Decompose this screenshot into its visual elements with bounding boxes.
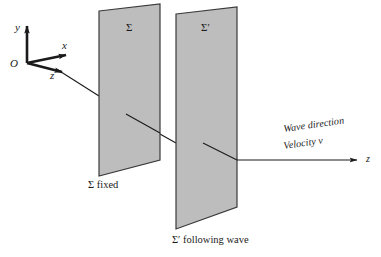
figure-canvas: y x z O Σ Σ′ Σ fixed Σ′ following wave W… <box>0 0 381 257</box>
plane-sigma-caption: Σ fixed <box>88 180 118 191</box>
physics-diagram-svg <box>0 0 381 257</box>
plane-sigma-prime-caption: Σ′ following wave <box>172 235 249 246</box>
axis-origin-label: O <box>10 58 18 69</box>
axis-label-x: x <box>62 40 67 51</box>
plane-sigma-prime <box>176 7 237 229</box>
axis-label-z: z <box>50 70 54 81</box>
plane-sigma-prime-label: Σ′ <box>201 22 210 33</box>
wave-axis-end-label: z <box>366 154 370 164</box>
plane-sigma-label: Σ <box>126 22 132 33</box>
plane-sigma-prime-surface <box>176 7 237 229</box>
axis-label-y: y <box>15 22 20 33</box>
